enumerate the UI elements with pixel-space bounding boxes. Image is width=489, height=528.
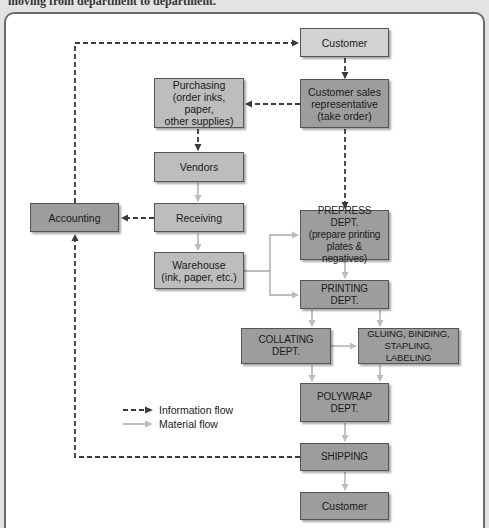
node-warehouse: Warehouse (ink, paper, etc.): [154, 252, 244, 289]
node-purchasing-label-3: other supplies): [165, 115, 234, 127]
mat-warehouse-to-printing: [270, 271, 298, 295]
legend-material-flow-label: Material flow: [159, 418, 218, 430]
node-shipping-label: SHIPPING: [321, 451, 368, 463]
node-warehouse-label-2: (ink, paper, etc.): [161, 271, 236, 283]
node-vendors-label: Vendors: [180, 161, 219, 173]
node-collating-dept: COLLATING DEPT.: [241, 328, 331, 364]
node-printing-label-2: DEPT.: [331, 295, 359, 307]
legend-information-flow-label: Information flow: [159, 404, 233, 416]
solid-arrow-icon: [122, 419, 154, 429]
node-warehouse-label-1: Warehouse: [172, 259, 225, 271]
node-accounting-label: Accounting: [49, 212, 101, 224]
node-csr-label-2: representative: [311, 98, 378, 110]
flow-connectors: [0, 0, 489, 528]
node-printing-label-1: PRINTING: [321, 283, 368, 295]
node-gluing-label-1: GLUING, BINDING,: [367, 328, 449, 340]
mat-warehouse-to-prepress: [244, 235, 298, 271]
node-prepress-dept: PREPRESS DEPT. (prepare printing plates …: [300, 210, 389, 260]
node-customer-bottom-label: Customer: [322, 500, 368, 512]
node-csr-label-3: (take order): [317, 110, 371, 122]
node-prepress-label-1: PREPRESS DEPT.: [303, 205, 386, 229]
node-prepress-label-2: (prepare printing: [309, 229, 381, 241]
node-accounting: Accounting: [30, 203, 119, 232]
node-polywrap-label-1: POLYWRAP: [317, 391, 372, 403]
node-csr-label-1: Customer sales: [308, 86, 381, 98]
node-customer-bottom: Customer: [300, 492, 389, 520]
node-polywrap-label-2: DEPT.: [331, 403, 359, 415]
node-prepress-label-3: plates & negatives): [303, 241, 386, 265]
node-gluing-label-2: STAPLING, LABELING: [361, 340, 456, 364]
node-receiving: Receiving: [154, 203, 244, 232]
node-purchasing-label-1: Purchasing: [173, 79, 226, 91]
node-purchasing-label-2: (order inks, paper,: [157, 91, 241, 115]
node-collating-label-2: DEPT.: [272, 346, 300, 358]
node-receiving-label: Receiving: [176, 212, 222, 224]
node-customer-top: Customer: [300, 28, 389, 57]
node-gluing-binding-stapling-labeling: GLUING, BINDING, STAPLING, LABELING: [358, 328, 459, 364]
node-customer-top-label: Customer: [322, 37, 368, 49]
legend-material-flow: Material flow: [122, 417, 233, 431]
legend-information-flow: Information flow: [122, 403, 233, 417]
legend: Information flow Material flow: [122, 403, 233, 431]
node-printing-dept: PRINTING DEPT.: [300, 280, 389, 309]
node-customer-sales-representative: Customer sales representative (take orde…: [300, 79, 389, 128]
node-collating-label-1: COLLATING: [258, 334, 313, 346]
dashed-arrow-icon: [122, 405, 154, 415]
node-polywrap-dept: POLYWRAP DEPT.: [300, 383, 389, 422]
node-purchasing: Purchasing (order inks, paper, other sup…: [154, 78, 244, 128]
node-shipping: SHIPPING: [300, 443, 389, 471]
node-vendors: Vendors: [154, 152, 244, 182]
